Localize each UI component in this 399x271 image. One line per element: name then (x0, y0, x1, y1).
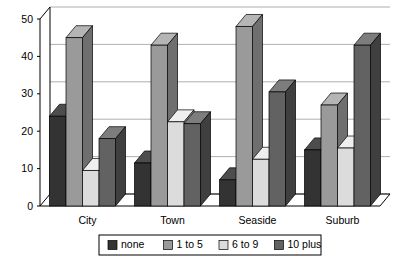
bar-side-face (201, 112, 211, 206)
bar-front-face (184, 124, 201, 206)
legend-swatch (108, 241, 117, 250)
bar-front-face (236, 26, 253, 206)
legend-swatch (164, 241, 173, 250)
y-tick-label: 20 (21, 125, 33, 137)
bar-front-face (220, 180, 237, 206)
y-tick-label: 40 (21, 50, 33, 62)
bar (354, 33, 381, 206)
legend: none1 to 56 to 910 plus (99, 235, 321, 255)
y-tick-label: 50 (21, 13, 33, 25)
legend-label: 1 to 5 (177, 238, 203, 250)
y-axis-tick-labels: 01020304050 (21, 13, 40, 212)
bar-side-face (371, 33, 381, 206)
axis-line (40, 194, 50, 206)
bar-front-face (66, 38, 83, 206)
y-tick-label: 10 (21, 162, 33, 174)
bar-front-face (135, 163, 152, 206)
bar-side-face (116, 127, 126, 206)
y-tick-label: 30 (21, 87, 33, 99)
bar (99, 127, 126, 206)
x-category-label: Seaside (239, 214, 277, 226)
axis-line (40, 7, 50, 19)
legend-label: none (121, 238, 145, 250)
bar-chart: 01020304050 CityTownSeasideSuburb none1 … (0, 0, 399, 271)
x-axis-category-labels: CityTownSeasideSuburb (78, 214, 359, 226)
bar (269, 80, 296, 206)
y-tick-label: 0 (27, 200, 33, 212)
bar-front-face (83, 170, 100, 206)
legend-swatch (275, 241, 284, 250)
x-category-label: Town (160, 214, 185, 226)
bar-front-face (253, 159, 270, 206)
bar (184, 112, 211, 206)
bar-side-face (286, 80, 296, 206)
x-category-label: Suburb (326, 214, 360, 226)
bar-front-face (269, 92, 286, 206)
bar-front-face (305, 150, 322, 206)
chart-canvas: 01020304050 CityTownSeasideSuburb none1 … (0, 0, 399, 271)
axis-line (380, 194, 390, 206)
bar-front-face (338, 148, 355, 206)
x-category-label: City (78, 214, 97, 226)
bar-front-face (168, 122, 185, 206)
bar-front-face (321, 105, 338, 206)
bar-front-face (99, 139, 116, 206)
bar-front-face (354, 45, 371, 206)
legend-label: 6 to 9 (232, 238, 258, 250)
bar-front-face (50, 116, 67, 206)
legend-swatch (219, 241, 228, 250)
bars-group (50, 14, 381, 206)
legend-label: 10 plus (288, 238, 322, 250)
bar-front-face (151, 45, 168, 206)
